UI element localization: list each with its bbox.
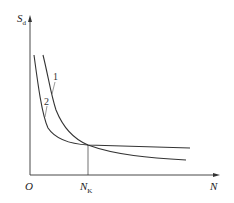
x-axis-arrow-icon	[213, 173, 220, 177]
curve-2-leader	[45, 106, 47, 117]
y-axis-label: Sd	[17, 13, 26, 27]
y-axis-arrow-icon	[28, 15, 32, 22]
curve-2-label: 2	[44, 97, 49, 107]
x-axis-label: N	[210, 181, 217, 192]
curve-1-leader	[52, 82, 55, 94]
origin-label: O	[25, 181, 33, 192]
curve-1	[43, 55, 186, 160]
diagram-canvas	[0, 0, 234, 203]
curve-1-label: 1	[53, 72, 58, 82]
nk-label: NK	[80, 181, 92, 195]
curve-2	[34, 55, 190, 148]
